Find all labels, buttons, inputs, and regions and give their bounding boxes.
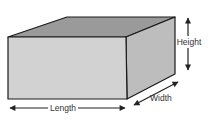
length-dimension: Length (10, 103, 125, 113)
height-dimension: Height (177, 18, 202, 70)
width-label: Width (150, 93, 172, 103)
height-label: Height (177, 37, 202, 47)
length-label: Length (50, 103, 76, 113)
box-diagram: Length Width Height (0, 0, 211, 122)
box-front-face (8, 37, 127, 99)
